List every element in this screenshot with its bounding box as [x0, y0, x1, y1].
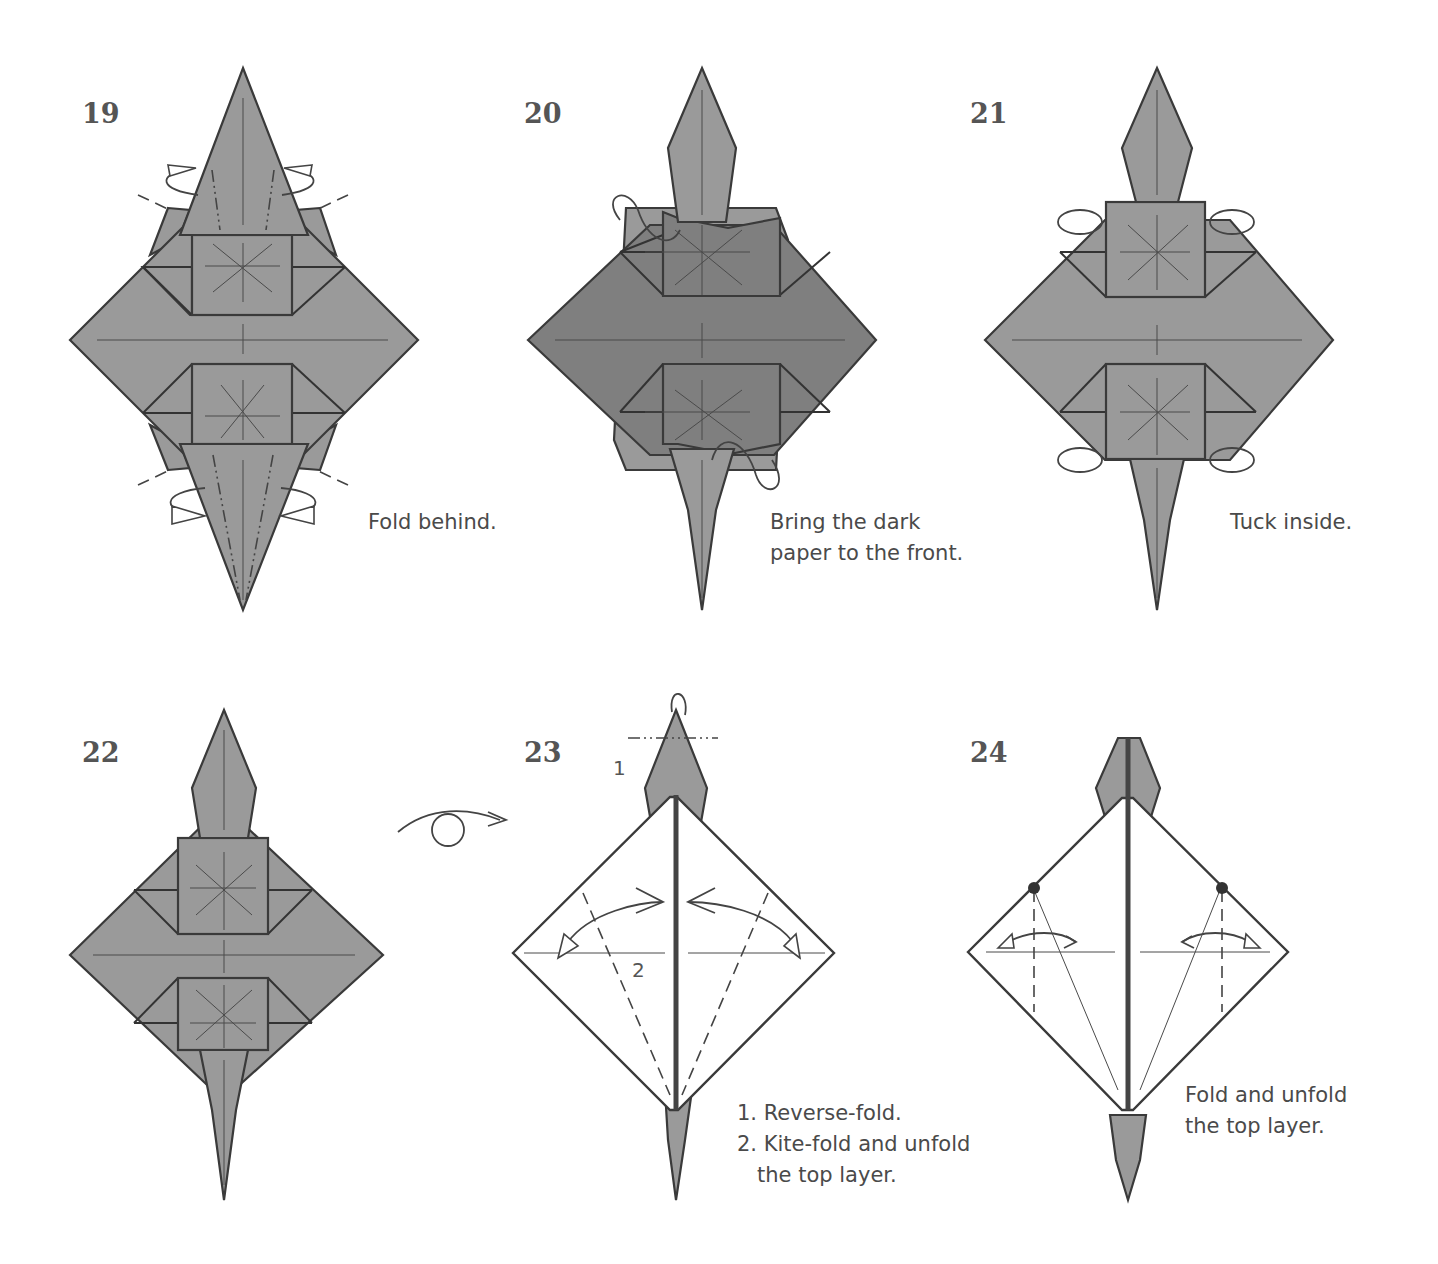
step-19: 19	[0, 0, 480, 620]
step-20: 20 Bring the dark paper to the front.	[480, 0, 960, 620]
step-23: 23 1 2 1. Reverse-fold. 2. Kite-fold and…	[500, 680, 980, 1240]
step-22: 22	[0, 680, 520, 1240]
step-24-drawing	[950, 720, 1438, 1240]
step-caption: 1. Reverse-fold. 2. Kite-fold and unfold…	[737, 1098, 970, 1191]
step-caption: Fold behind.	[368, 507, 497, 538]
reference-dot	[1216, 882, 1228, 894]
step-21-drawing	[960, 0, 1438, 620]
reference-dot	[1028, 882, 1040, 894]
fold-label-2: 2	[632, 958, 645, 982]
step-24: 24 Fold and unfold the top layer.	[950, 720, 1438, 1240]
step-caption: Bring the dark paper to the front.	[770, 507, 963, 569]
step-22-drawing	[0, 680, 520, 1240]
step-caption: Tuck inside.	[1230, 507, 1352, 538]
step-21: 21 Tuck inside.	[960, 0, 1438, 620]
step-caption: Fold and unfold the top layer.	[1185, 1080, 1347, 1142]
turn-over-icon	[398, 811, 506, 846]
